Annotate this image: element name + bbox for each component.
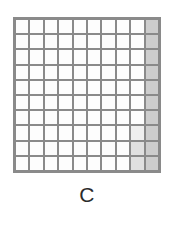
- grid-cell: [16, 35, 28, 48]
- grid-cell: [102, 66, 114, 79]
- grid-cell: [102, 142, 114, 155]
- grid-cell: [45, 50, 57, 63]
- grid-cell: [102, 20, 114, 33]
- grid-cell: [59, 81, 71, 94]
- grid-cell: [74, 20, 86, 33]
- grid-cell: [59, 157, 71, 170]
- grid-cell: [59, 142, 71, 155]
- figure-caption: C: [0, 182, 174, 208]
- grid-cell: [74, 81, 86, 94]
- grid-cell: [59, 35, 71, 48]
- grid-cell: [117, 126, 129, 139]
- grid-cell: [146, 66, 158, 79]
- grid-cell: [131, 81, 143, 94]
- grid-cell: [45, 20, 57, 33]
- grid-cell: [88, 66, 100, 79]
- grid-cell: [146, 126, 158, 139]
- grid-cell: [45, 111, 57, 124]
- grid-cell: [45, 126, 57, 139]
- grid-cell: [30, 142, 42, 155]
- grid-cell: [59, 66, 71, 79]
- grid-cell: [88, 81, 100, 94]
- grid-cell: [74, 111, 86, 124]
- grid-cell: [45, 66, 57, 79]
- grid-cell: [102, 157, 114, 170]
- grid-cell: [102, 96, 114, 109]
- unit-square-grid: [13, 17, 161, 173]
- grid-cell: [102, 35, 114, 48]
- grid-cell: [117, 96, 129, 109]
- grid-cell: [146, 50, 158, 63]
- grid-cell: [30, 157, 42, 170]
- grid-cell: [88, 96, 100, 109]
- grid-cell: [146, 96, 158, 109]
- grid-cell: [146, 35, 158, 48]
- grid-cell: [102, 50, 114, 63]
- grid-cell: [117, 81, 129, 94]
- grid-cell: [117, 20, 129, 33]
- grid-cell: [131, 157, 143, 170]
- grid-cell: [88, 20, 100, 33]
- grid-cell: [146, 81, 158, 94]
- grid-cell: [45, 35, 57, 48]
- grid-cell: [45, 142, 57, 155]
- grid-cell: [88, 111, 100, 124]
- grid-cell: [146, 111, 158, 124]
- grid-cell: [74, 35, 86, 48]
- grid-cell: [74, 126, 86, 139]
- grid-cell: [30, 81, 42, 94]
- grid-cell: [16, 20, 28, 33]
- grid-cell: [16, 111, 28, 124]
- grid-cell: [117, 50, 129, 63]
- grid-cell: [59, 50, 71, 63]
- grid-cell: [30, 126, 42, 139]
- grid-cell: [16, 157, 28, 170]
- grid-cell: [59, 96, 71, 109]
- grid-cell: [74, 157, 86, 170]
- grid-cell: [16, 126, 28, 139]
- grid-cell: [131, 35, 143, 48]
- grid-cell: [117, 157, 129, 170]
- grid-cell: [117, 35, 129, 48]
- grid-cell: [30, 111, 42, 124]
- grid-cell: [88, 126, 100, 139]
- grid-cell: [74, 142, 86, 155]
- grid-cell: [131, 20, 143, 33]
- grid-cell: [30, 20, 42, 33]
- grid-cell: [45, 81, 57, 94]
- grid-cell: [16, 81, 28, 94]
- grid-cell: [146, 20, 158, 33]
- grid-cell: [131, 142, 143, 155]
- grid-cell: [16, 66, 28, 79]
- grid-cell: [146, 157, 158, 170]
- grid-cell: [74, 50, 86, 63]
- grid-cell: [131, 111, 143, 124]
- grid-cell: [30, 50, 42, 63]
- grid-cell: [88, 157, 100, 170]
- grid-cell: [102, 81, 114, 94]
- grid-cell: [16, 96, 28, 109]
- grid-cell: [30, 96, 42, 109]
- grid-cell: [117, 142, 129, 155]
- grid-cell: [30, 35, 42, 48]
- grid-cell: [131, 66, 143, 79]
- grid-cell: [74, 66, 86, 79]
- grid-cell: [102, 111, 114, 124]
- grid-cell: [102, 126, 114, 139]
- grid-cell: [131, 126, 143, 139]
- grid-cell: [88, 50, 100, 63]
- grid-cell: [131, 96, 143, 109]
- grid-cell: [16, 142, 28, 155]
- grid-figure: C: [0, 0, 174, 225]
- grid-cell: [59, 111, 71, 124]
- grid-cell: [117, 66, 129, 79]
- grid-cell: [59, 20, 71, 33]
- grid-cells: [16, 20, 158, 170]
- grid-cell: [131, 50, 143, 63]
- grid-cell: [45, 96, 57, 109]
- grid-cell: [16, 50, 28, 63]
- grid-cell: [146, 142, 158, 155]
- grid-cell: [88, 35, 100, 48]
- grid-cell: [74, 96, 86, 109]
- grid-cell: [30, 66, 42, 79]
